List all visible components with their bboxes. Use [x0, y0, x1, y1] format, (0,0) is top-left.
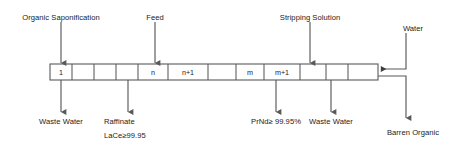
- organic-saponification-label: Organic Saponification: [22, 13, 100, 23]
- water-label: Water: [403, 24, 423, 34]
- inlet-arrows: [61, 22, 310, 63]
- raffinate-label: Raffinate: [104, 117, 135, 126]
- process-flow-diagram: 1 n n+1 m m+1 Organic Saponification Fee…: [0, 0, 458, 152]
- raffinate-label-group: Raffinate LaCe≥99.95: [104, 117, 146, 141]
- barren-organic-line: [378, 76, 406, 118]
- cascade-cell-n: n: [151, 68, 155, 77]
- cascade-cell-m-plus-1: m+1: [275, 68, 289, 77]
- waste-water-right-label: Waste Water: [309, 117, 353, 127]
- raffinate-purity-label: LaCe≥99.95: [104, 131, 146, 141]
- prnd-product-label: PrNd≥ 99.95%: [251, 117, 301, 127]
- cascade-cell-m: m: [247, 68, 253, 77]
- feed-label: Feed: [146, 13, 164, 23]
- water-inlet-line: [381, 33, 406, 69]
- waste-water-left-label: Waste Water: [39, 117, 83, 127]
- cascade-cell-n-plus-1: n+1: [182, 68, 194, 77]
- cascade-outline: [50, 64, 378, 80]
- barren-organic-label: Barren Organic: [387, 128, 439, 138]
- outlet-arrows: [61, 80, 331, 112]
- stripping-solution-label: Stripping Solution: [280, 13, 340, 23]
- cascade-cell-1: 1: [59, 68, 63, 77]
